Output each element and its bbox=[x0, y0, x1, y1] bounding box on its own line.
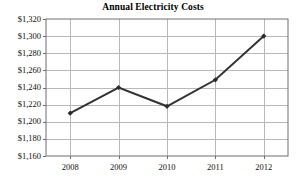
x-axis-tick-label: 2008 bbox=[50, 163, 90, 172]
chart-container: Annual Electricity Costs $1,320$1,300$1,… bbox=[0, 0, 306, 181]
y-axis-tick-label: $1,240 bbox=[18, 83, 41, 92]
y-axis-tick-label: $1,180 bbox=[18, 134, 41, 143]
y-axis-tick-label: $1,260 bbox=[18, 66, 41, 75]
line-chart-plot bbox=[0, 0, 306, 181]
y-axis-tick-label: $1,320 bbox=[18, 15, 41, 24]
x-axis-tick-label: 2011 bbox=[195, 163, 235, 172]
y-axis-tick-label: $1,200 bbox=[18, 117, 41, 126]
y-axis-tick-label: $1,160 bbox=[18, 152, 41, 161]
y-axis-tick-label: $1,300 bbox=[18, 32, 41, 41]
x-axis-tick-label: 2012 bbox=[244, 163, 284, 172]
x-axis-tick-label: 2009 bbox=[99, 163, 139, 172]
y-axis-tick-label: $1,280 bbox=[18, 49, 41, 58]
x-axis-tick-label: 2010 bbox=[147, 163, 187, 172]
y-axis-tick-label: $1,220 bbox=[18, 100, 41, 109]
